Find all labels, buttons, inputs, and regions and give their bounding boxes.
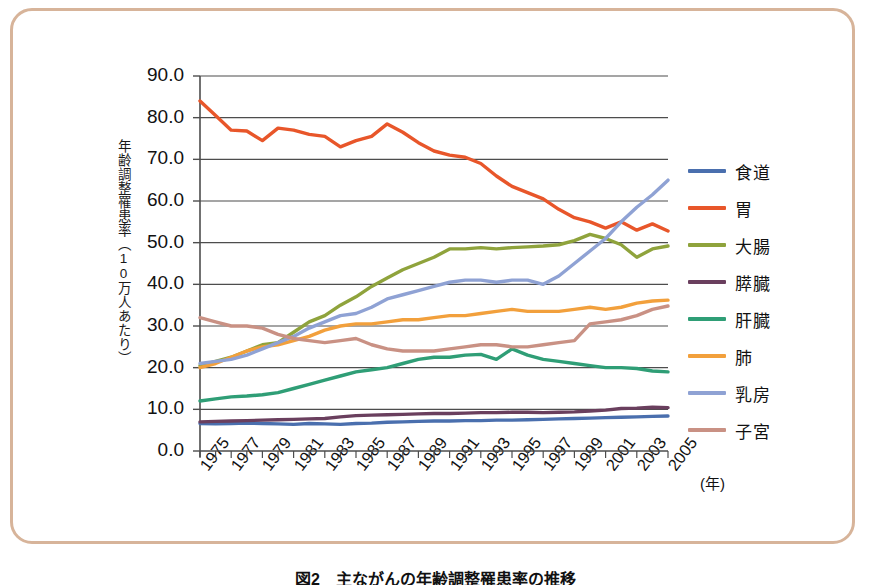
legend-swatch-icon — [688, 391, 726, 395]
y-axis-tick-label: 70.0 — [122, 147, 184, 169]
x-axis-tick-label: 1993 — [477, 434, 514, 475]
x-axis-tick-label: 1991 — [446, 434, 483, 475]
x-axis-tick-label: 1999 — [570, 434, 607, 475]
legend-item-膵臓[interactable]: 膵臓 — [688, 271, 770, 293]
legend-label: 肺 — [735, 344, 753, 369]
legend-label: 肝臓 — [735, 307, 770, 332]
legend-swatch-icon — [688, 317, 726, 321]
figure-caption: 図2 主ながんの年齢調整罹患率の推移 — [0, 566, 871, 585]
legend-swatch-icon — [688, 243, 726, 247]
y-axis-tick-label: 40.0 — [122, 272, 184, 294]
y-axis-tick-label: 20.0 — [122, 356, 184, 378]
legend-item-子宮[interactable]: 子宮 — [688, 419, 770, 441]
y-axis-tick-label: 80.0 — [122, 106, 184, 128]
legend-swatch-icon — [688, 354, 726, 358]
series-line-膵臓 — [200, 407, 668, 422]
y-axis-tick-label: 50.0 — [122, 231, 184, 253]
legend-label: 膵臓 — [735, 270, 770, 295]
legend-item-食道[interactable]: 食道 — [688, 160, 770, 182]
series-line-大腸 — [200, 234, 668, 365]
y-axis-tick-label: 10.0 — [122, 397, 184, 419]
x-axis-tick-label: 1987 — [383, 434, 420, 475]
series-line-胃 — [200, 101, 668, 231]
y-axis-tick-label: 30.0 — [122, 314, 184, 336]
chart-area: 年齢調整罹患率（10万人あたり） 0.010.020.030.040.050.0… — [0, 0, 871, 585]
series-line-肝臓 — [200, 349, 668, 401]
legend-label: 子宮 — [735, 418, 770, 443]
series-line-乳房 — [200, 180, 668, 363]
legend-swatch-icon — [688, 206, 726, 210]
legend-label: 乳房 — [735, 381, 770, 406]
legend-item-肺[interactable]: 肺 — [688, 345, 753, 367]
legend-swatch-icon — [688, 428, 726, 432]
y-axis-tick-label: 90.0 — [122, 64, 184, 86]
legend-label: 大腸 — [735, 233, 770, 258]
x-axis-tick-label: 1997 — [539, 434, 576, 475]
series-line-肺 — [200, 300, 668, 368]
x-axis-unit-label: (年) — [700, 472, 725, 493]
legend-swatch-icon — [688, 280, 726, 284]
x-axis-tick-label: 1981 — [290, 434, 327, 475]
series-line-食道 — [200, 416, 668, 424]
x-axis-tick-label: 1983 — [321, 434, 358, 475]
x-axis-tick-label: 2003 — [633, 434, 670, 475]
y-axis-tick-label: 0.0 — [122, 439, 184, 461]
legend-label: 胃 — [735, 196, 753, 221]
x-axis-tick-label: 2001 — [602, 434, 639, 475]
legend-item-胃[interactable]: 胃 — [688, 197, 753, 219]
x-axis-tick-label: 1985 — [352, 434, 389, 475]
legend-item-肝臓[interactable]: 肝臓 — [688, 308, 770, 330]
legend-label: 食道 — [735, 159, 770, 184]
y-axis-tick-label: 60.0 — [122, 189, 184, 211]
x-axis-tick-label: 1989 — [414, 434, 451, 475]
legend-item-大腸[interactable]: 大腸 — [688, 234, 770, 256]
x-axis-tick-label: 1977 — [227, 434, 264, 475]
x-axis-tick-label: 1975 — [196, 434, 233, 475]
series-line-子宮 — [200, 306, 668, 351]
legend-item-乳房[interactable]: 乳房 — [688, 382, 770, 404]
legend-swatch-icon — [688, 169, 726, 173]
x-axis-tick-label: 1995 — [508, 434, 545, 475]
x-axis-tick-label: 1979 — [258, 434, 295, 475]
